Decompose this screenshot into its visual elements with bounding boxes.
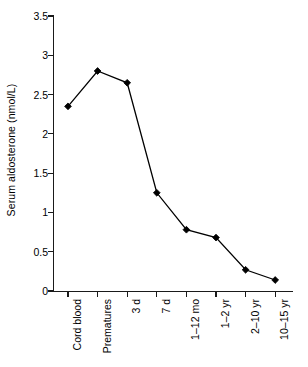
y-tick-mark [48, 251, 53, 252]
y-tick-mark [48, 94, 53, 95]
x-tick-label-text: Cord blood [72, 299, 83, 350]
y-tick-mark [48, 15, 53, 16]
data-series-layer [0, 0, 308, 367]
x-tick-label-text: 7 d [161, 299, 172, 314]
y-tick-mark [48, 173, 53, 174]
x-tick-mark [275, 292, 276, 297]
y-tick-mark [48, 212, 53, 213]
x-tick-label-text: 10–15 yr [279, 299, 290, 340]
data-point-marker [124, 79, 131, 86]
x-tick-label: 1–12 mo [186, 299, 197, 340]
x-tick-mark [127, 292, 128, 297]
y-tick-mark [48, 290, 53, 291]
x-tick-mark [186, 292, 187, 297]
x-tick-label: 7 d [157, 299, 168, 314]
x-tick-label-text: Prematures [102, 299, 113, 353]
x-tick-label-text: 2–10 yr [250, 299, 261, 334]
data-point-marker [272, 277, 279, 284]
x-tick-label: 10–15 yr [275, 299, 286, 340]
x-tick-mark [67, 292, 68, 297]
x-tick-label: 1–2 yr [216, 299, 227, 328]
series-markers [65, 68, 279, 284]
x-tick-mark [215, 292, 216, 297]
chart-figure: Serum aldosterone (nmol/L) 00.511.522.53… [0, 0, 308, 367]
x-tick-label: 3 d [127, 299, 138, 314]
x-tick-mark [245, 292, 246, 297]
x-tick-mark [156, 292, 157, 297]
series-line [68, 71, 275, 280]
x-tick-label: 2–10 yr [246, 299, 257, 334]
x-tick-label-text: 3 d [131, 299, 142, 314]
y-tick-mark [48, 133, 53, 134]
x-tick-label-text: 1–2 yr [220, 299, 231, 328]
x-tick-label: Cord blood [68, 299, 79, 350]
y-tick-mark [48, 55, 53, 56]
x-tick-mark [97, 292, 98, 297]
x-tick-label-text: 1–12 mo [190, 299, 201, 340]
x-tick-label: Prematures [98, 299, 109, 353]
